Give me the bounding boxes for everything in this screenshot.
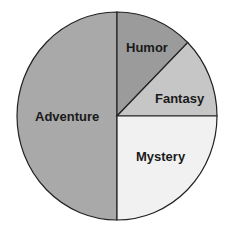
label-adventure: Adventure [35, 109, 99, 124]
label-fantasy: Fantasy [155, 91, 205, 106]
label-humor: Humor [126, 40, 168, 55]
pie-chart: Humor Fantasy Mystery Adventure [0, 0, 230, 236]
slice-mystery [117, 116, 217, 220]
label-mystery: Mystery [136, 149, 186, 164]
